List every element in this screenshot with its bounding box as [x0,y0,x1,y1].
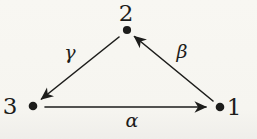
node-1-dot [216,103,225,112]
node-2-dot [123,26,131,34]
edge-beta-label: β [176,40,188,62]
diagram-canvas: 2 3 1 γ β α [0,0,257,139]
node-3-dot [29,102,38,111]
node-3-label: 3 [3,93,18,119]
edge-beta-arrow [135,37,214,102]
edge-alpha-label: α [126,109,139,131]
edge-gamma-arrow [42,37,120,99]
edge-gamma-label: γ [64,41,76,63]
node-2-label: 2 [119,0,134,26]
triangle-diagram: 2 3 1 γ β α [0,0,257,139]
node-1-label: 1 [227,94,242,120]
